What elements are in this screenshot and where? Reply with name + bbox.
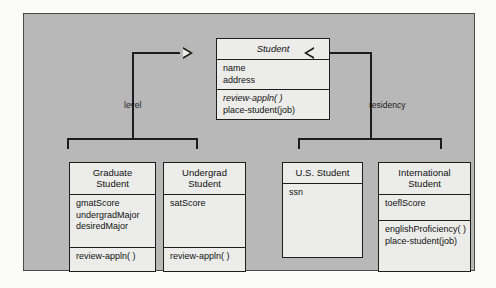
attribute-undergradmajor: undergradMajor [76, 210, 150, 222]
operation-compartment-graduate-student: review-appln( ) [70, 247, 155, 266]
generalization-line-graduate-drop [67, 138, 69, 149]
generalization-arrowhead-left [183, 47, 193, 59]
operation-review-appln: review-appln( ) [170, 251, 240, 263]
diagram-page: level residency Student name address rev… [0, 0, 496, 288]
class-name-compartment-undergrad-student: Undergrad Student [164, 163, 245, 194]
diagram-panel: level residency Student name address rev… [23, 13, 475, 271]
class-box-graduate-student[interactable]: Graduate Student gmatScore undergradMajo… [69, 162, 156, 272]
class-name-us-student: U.S. Student [287, 167, 358, 178]
attribute-gmatscore: gmatScore [76, 198, 150, 210]
attribute-compartment-us-student: ssn [283, 183, 362, 241]
attribute-name: name [223, 63, 324, 75]
class-name-graduate-student-line2: Student [74, 178, 151, 189]
attribute-satscore: satScore [170, 198, 240, 210]
generalization-line-residency-trunk [370, 52, 372, 140]
operation-compartment-undergrad-student: review-appln( ) [164, 247, 245, 266]
class-name-compartment-us-student: U.S. Student [283, 163, 362, 183]
attribute-address: address [223, 75, 324, 87]
class-box-us-student[interactable]: U.S. Student ssn [282, 162, 363, 258]
generalization-line-level-branch-bar [67, 138, 198, 140]
generalization-line-level-trunk [132, 52, 134, 140]
operation-compartment-student: review-appln( ) place-student(job) [217, 89, 329, 119]
operation-review-appln: review-appln( ) [223, 93, 324, 105]
operation-english-proficiency: englishProficiency( ) [385, 224, 465, 236]
operation-place-student: place-student(job) [385, 236, 465, 248]
attribute-compartment-international-student: toeflScore [379, 194, 470, 220]
discriminator-label-level: level [124, 100, 141, 110]
operation-place-student: place-student(job) [223, 105, 324, 117]
attribute-compartment-graduate-student: gmatScore undergradMajor desiredMajor [70, 194, 155, 247]
generalization-line-intl-drop [440, 138, 442, 149]
discriminator-label-residency: residency [369, 100, 405, 110]
class-name-international-student-line2: Student [383, 178, 466, 189]
class-name-graduate-student-line1: Graduate [74, 167, 151, 178]
attribute-compartment-undergrad-student: satScore [164, 194, 245, 247]
generalization-line-us-drop [298, 138, 300, 149]
generalization-arrowhead-right [304, 47, 314, 59]
generalization-line-level-horizontal-top [132, 52, 180, 54]
attribute-desiredmajor: desiredMajor [76, 221, 150, 233]
generalization-line-residency-branch-bar [298, 138, 442, 140]
class-name-compartment-international-student: International Student [379, 163, 470, 194]
attribute-toeflscore: toeflScore [385, 198, 465, 210]
operation-review-appln: review-appln( ) [76, 251, 150, 263]
class-name-compartment-graduate-student: Graduate Student [70, 163, 155, 194]
class-name-undergrad-student-line2: Student [168, 178, 241, 189]
class-name-international-student-line1: International [383, 167, 466, 178]
generalization-line-undergrad-drop [196, 138, 198, 149]
attribute-ssn: ssn [289, 187, 357, 199]
operation-compartment-international-student: englishProficiency( ) place-student(job) [379, 220, 470, 250]
class-box-undergrad-student[interactable]: Undergrad Student satScore review-appln(… [163, 162, 246, 272]
attribute-compartment-student: name address [217, 59, 329, 89]
class-name-undergrad-student-line1: Undergrad [168, 167, 241, 178]
class-box-international-student[interactable]: International Student toeflScore english… [378, 162, 471, 272]
